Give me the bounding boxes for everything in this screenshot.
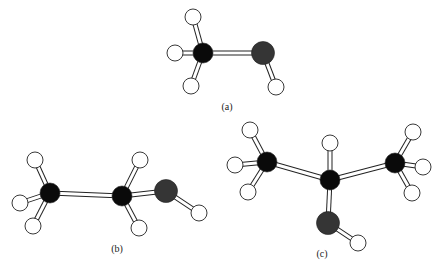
hydrogen-atom xyxy=(27,152,43,168)
carbon-atom xyxy=(320,170,340,190)
hydrogen-atom xyxy=(404,185,420,201)
hydrogen-atom xyxy=(25,218,41,234)
molecule-figure: (a) (b) (c) xyxy=(0,0,442,262)
molecule-b-ethanol xyxy=(12,152,207,236)
hydrogen-atom xyxy=(167,45,183,61)
label-c: (c) xyxy=(316,248,327,260)
hydrogen-atom xyxy=(227,157,243,173)
hydrogen-atom xyxy=(132,152,148,168)
carbon-atom xyxy=(385,153,405,173)
hydrogen-atom xyxy=(415,159,431,175)
carbon-atom xyxy=(193,43,213,63)
carbon-atom xyxy=(112,186,132,206)
hydrogen-atom xyxy=(405,124,421,140)
hydrogen-atom xyxy=(131,220,147,236)
carbon-atom xyxy=(257,152,277,172)
hydrogen-atom xyxy=(240,184,256,200)
hydrogen-atom xyxy=(322,135,338,151)
oxygen-atom xyxy=(317,212,340,235)
molecule-c-isopropanol xyxy=(227,122,431,251)
hydrogen-atom xyxy=(350,235,366,251)
oxygen-atom xyxy=(155,180,178,203)
label-a: (a) xyxy=(221,101,232,113)
label-b: (b) xyxy=(111,243,123,255)
oxygen-atom xyxy=(252,42,275,65)
hydrogen-atom xyxy=(268,79,284,95)
hydrogen-atom xyxy=(191,205,207,221)
carbon-atom xyxy=(40,183,60,203)
hydrogen-atom xyxy=(12,195,28,211)
hydrogen-atom xyxy=(183,78,199,94)
hydrogen-atom xyxy=(242,122,258,138)
molecule-a-methanol xyxy=(167,9,284,95)
hydrogen-atom xyxy=(185,9,201,25)
